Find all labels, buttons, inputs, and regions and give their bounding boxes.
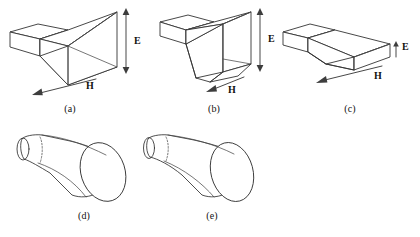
e-field-arrow-c (391, 41, 401, 59)
h-field-label-b: H (228, 84, 236, 95)
panel-a-pyramidal-horn: E H (0, 0, 145, 100)
panel-b-e-plane-sectoral-horn: E H (148, 0, 276, 100)
h-field-label-c: H (374, 70, 382, 81)
h-field-label-a: H (86, 80, 94, 91)
e-field-label-b: E (268, 33, 275, 44)
h-field-arrow-b (206, 75, 248, 95)
e-field-label-c: E (402, 41, 409, 52)
caption-b: (b) (192, 103, 236, 114)
caption-d: (d) (62, 210, 106, 221)
caption-e: (e) (190, 210, 234, 221)
panel-d-conical-horn (10, 125, 155, 207)
caption-c: (c) (328, 103, 372, 114)
e-field-label-a: E (134, 35, 141, 46)
caption-a: (a) (48, 103, 92, 114)
e-field-arrow-b (253, 8, 267, 72)
panel-e-exponential-horn (140, 125, 285, 207)
e-field-arrow-a (119, 8, 133, 74)
horn-antenna-figure: E H (a) (0, 0, 420, 237)
panel-c-h-plane-sectoral-horn: E H (278, 0, 420, 100)
